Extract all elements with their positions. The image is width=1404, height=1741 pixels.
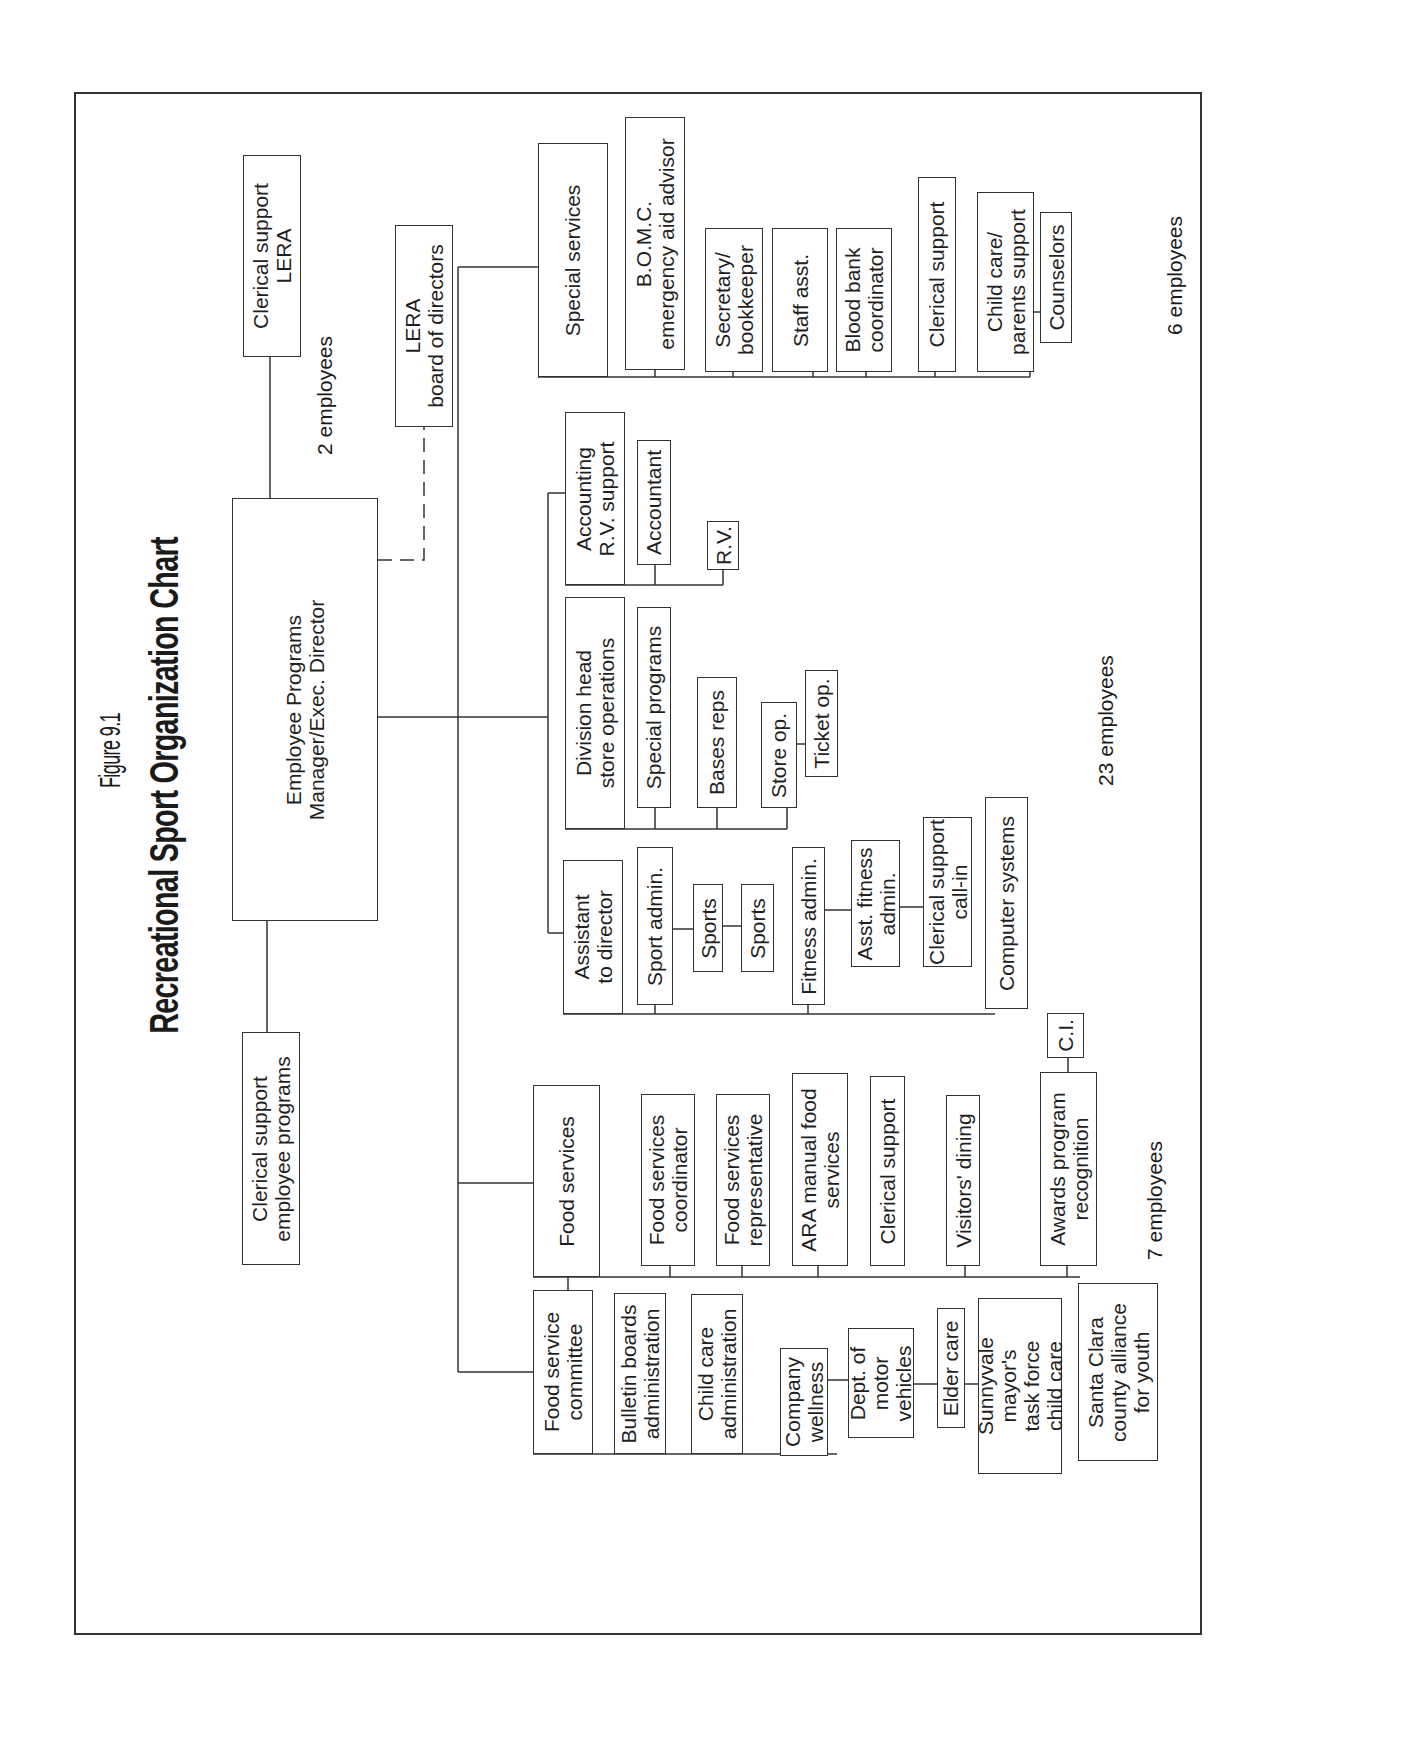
food-services-item: Clerical support	[870, 1076, 905, 1266]
special-services-item: B.O.M.C. emergency aid advisor	[625, 117, 685, 370]
special-services-head: Special services	[538, 143, 608, 377]
food-services-item: Awards program recognition	[1040, 1072, 1097, 1266]
assistant-director-item: Sport admin.	[637, 847, 673, 1005]
assistant-director-item: Computer systems	[985, 797, 1028, 1009]
store-operations-item: Store op.	[761, 702, 797, 808]
store-operations-item: Bases reps	[697, 677, 737, 808]
special-services-item: Child care/ parents support	[977, 192, 1034, 372]
committee-item: Company wellness	[780, 1348, 828, 1456]
food-services-item: C.I.	[1047, 1013, 1084, 1058]
operations-count: 23 employees	[1085, 620, 1125, 820]
food-services-item: ARA manual food services	[792, 1073, 848, 1266]
food-services-head: Food services	[533, 1085, 600, 1277]
food-services-item: Visitors' dining	[946, 1095, 980, 1266]
store-operations-head: Division head store operations	[565, 597, 625, 829]
special-services-item: Counselors	[1040, 212, 1072, 343]
special-services-item: Clerical support	[918, 177, 956, 372]
chart-title: Recreational Sport Organization Chart	[120, 470, 210, 1100]
assistant-director-head: Assistant to director	[563, 860, 623, 1014]
special-services-item: Staff asst.	[772, 228, 828, 372]
special-services-item: Secretary/ bookkeeper	[705, 228, 763, 372]
special-services-item: Blood bank coordinator	[836, 228, 892, 372]
store-operations-item: Special programs	[637, 607, 671, 808]
assistant-director-item: Fitness admin.	[792, 847, 825, 1005]
food-services-count: 7 employees	[1135, 1125, 1175, 1275]
root-box: Employee Programs Manager/Exec. Director	[232, 498, 378, 921]
assistant-director-item: Clerical support call-in	[923, 817, 972, 967]
committee-item: Bulletin boards administration	[614, 1293, 666, 1454]
food-services-item: Food services coordinator	[641, 1094, 695, 1266]
clerical-lera-box: Clerical support LERA	[243, 155, 301, 357]
accounting-item: R.V.	[707, 521, 739, 570]
staff-count: 2 employees	[300, 330, 350, 460]
committee-item: Dept. of motor vehicles	[848, 1328, 914, 1438]
committee-head: Food service committee	[533, 1290, 593, 1454]
committee-item: Child care administration	[691, 1294, 743, 1454]
store-operations-item: Ticket op.	[805, 670, 838, 777]
food-services-item: Food services representative	[716, 1094, 770, 1266]
assistant-director-item: Sports	[693, 884, 723, 972]
assistant-director-item: Asst. fitness admin.	[851, 840, 900, 967]
accounting-head: Accounting R.V. support	[565, 412, 625, 585]
committee-item: Sunnyvale mayor's task force child care	[978, 1298, 1062, 1474]
clerical-employee-programs-box: Clerical support employee programs	[242, 1032, 300, 1265]
committee-item: Santa Clara county alliance for youth	[1078, 1283, 1158, 1461]
committee-item: Elder care	[937, 1308, 965, 1428]
assistant-director-item: Sports	[741, 884, 774, 972]
accounting-item: Accountant	[637, 440, 671, 565]
lera-board-box: LERA board of directors	[395, 225, 453, 427]
special-services-count: 6 employees	[1155, 200, 1195, 350]
